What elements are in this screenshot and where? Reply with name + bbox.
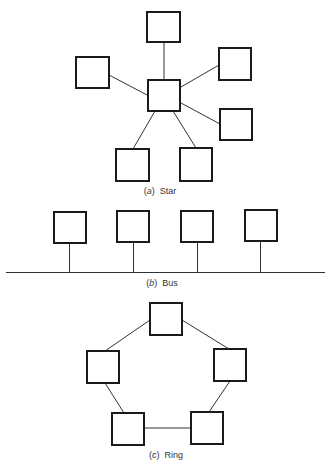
star-caption: (a) Star (144, 186, 177, 196)
bus-node-3 (181, 211, 213, 242)
star-node-left (76, 57, 109, 88)
bus-caption-name: Bus (162, 278, 178, 288)
ring-node-bottom-right (191, 412, 223, 444)
star-link-bottom-right (173, 111, 196, 148)
ring-caption-name: Ring (164, 450, 183, 460)
bus-topology (6, 210, 325, 273)
star-node-lower-right (220, 109, 252, 140)
ring-node-left (87, 351, 119, 383)
star-topology (76, 12, 252, 181)
ring-caption-letter: c (152, 450, 157, 460)
bus-caption: (b) Bus (146, 278, 178, 288)
star-hub-node (148, 80, 180, 111)
bus-node-2 (117, 211, 149, 242)
ring-link-top-left (105, 320, 150, 351)
bus-caption-letter: b (149, 278, 154, 288)
star-node-top (147, 12, 180, 42)
ring-link-left-bottomleft (105, 383, 124, 413)
ring-caption: (c) Ring (149, 450, 183, 460)
star-link-left (109, 75, 147, 95)
bus-node-1 (54, 212, 86, 243)
star-link-lower-right (181, 103, 220, 124)
star-link-bottom-left (133, 111, 155, 149)
bus-node-4 (245, 210, 277, 241)
star-caption-name: Star (160, 186, 177, 196)
star-node-upper-right (219, 48, 251, 80)
ring-link-top-right (182, 320, 229, 349)
network-topologies-figure (0, 0, 332, 472)
ring-topology (87, 303, 246, 445)
ring-node-top (150, 303, 182, 335)
star-node-bottom-right (180, 148, 212, 181)
star-link-upper-right (181, 65, 219, 87)
ring-link-right-bottomright (209, 381, 230, 412)
ring-node-right (214, 349, 246, 381)
star-node-bottom-left (116, 149, 149, 181)
star-caption-letter: a (147, 186, 152, 196)
ring-node-bottom-left (112, 413, 144, 445)
